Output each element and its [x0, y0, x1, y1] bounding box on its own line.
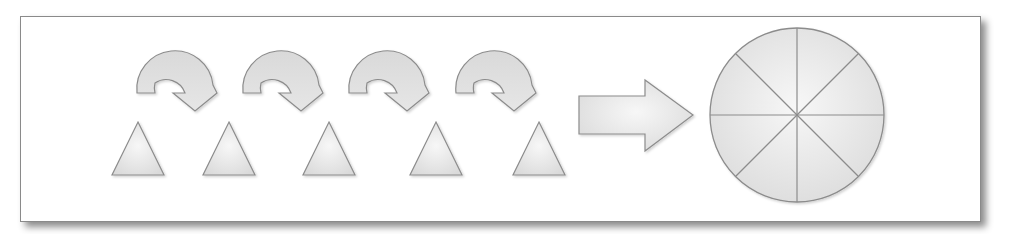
triangle-icon — [410, 122, 462, 175]
curved-arrow-icon — [456, 51, 536, 111]
curved-arrow-icon — [137, 51, 217, 111]
block-arrow-right-icon — [579, 80, 693, 151]
triangle-icon — [513, 122, 565, 175]
diagram-canvas — [0, 0, 1016, 234]
triangles-row — [112, 122, 565, 175]
triangle-icon — [112, 122, 164, 175]
curved-arrow-icon — [243, 51, 323, 111]
triangle-icon — [303, 122, 355, 175]
pie-circle-icon — [710, 28, 884, 202]
diagram-stage — [0, 0, 1016, 234]
curved-arrows-row — [137, 51, 536, 111]
triangle-icon — [203, 122, 255, 175]
curved-arrow-icon — [349, 51, 429, 111]
